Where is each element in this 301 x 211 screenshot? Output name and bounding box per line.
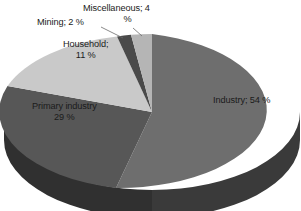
slice-label-primary-industry-line2: 29 % bbox=[32, 112, 97, 123]
slice-label-household-line1: Household; bbox=[63, 39, 108, 49]
slice-label-mining-line1: Mining; 2 % bbox=[37, 17, 84, 27]
slice-label-miscellaneous-line1: Miscellaneous; 4 bbox=[83, 3, 150, 13]
slice-label-miscellaneous-line2: % bbox=[105, 14, 150, 25]
slice-label-primary-industry: Primary industry 29 % bbox=[32, 101, 97, 122]
slice-label-household-line2: 11 % bbox=[63, 50, 108, 61]
slice-label-household: Household; 11 % bbox=[63, 39, 108, 60]
pie-chart-figure: Miscellaneous; 4 % Mining; 2 % Household… bbox=[0, 0, 301, 211]
leader-line-mining bbox=[101, 27, 123, 38]
slice-label-primary-industry-line1: Primary industry bbox=[32, 101, 97, 111]
slice-label-industry: Industry; 54 % bbox=[213, 95, 270, 106]
slice-label-miscellaneous: Miscellaneous; 4 % bbox=[83, 3, 150, 24]
slice-label-mining: Mining; 2 % bbox=[37, 17, 84, 28]
slice-label-industry-line1: Industry; 54 % bbox=[213, 95, 270, 105]
